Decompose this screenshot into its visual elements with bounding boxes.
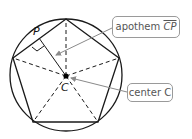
center-callout-arrow [71, 78, 127, 92]
right-angle-marker [32, 46, 44, 51]
apothem-callout-prefix: apothem [116, 22, 164, 32]
apothem-segment [39, 38, 66, 76]
regular-pentagon [13, 19, 119, 122]
apothem-callout: apothem CP [112, 16, 180, 38]
center-callout-text: center C [129, 88, 171, 98]
apothem-callout-segment: CP [163, 22, 176, 32]
center-point [63, 73, 68, 78]
point-p-label: P [33, 26, 40, 37]
point-c-label: C [61, 82, 69, 93]
center-callout: center C [127, 83, 173, 102]
